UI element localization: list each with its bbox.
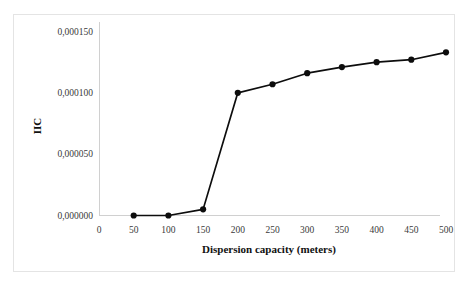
plot-area-background <box>99 22 440 216</box>
data-point <box>304 70 310 76</box>
y-axis-title: IIC <box>31 118 43 135</box>
line-chart: 0,000150 0,000100 0,000050 0,000000 0 50… <box>0 0 469 289</box>
x-axis-tick-labels: 0 50 100 150 200 250 300 350 400 450 500 <box>97 225 454 235</box>
data-point <box>408 57 414 63</box>
data-point <box>443 49 449 55</box>
x-tick-label-3: 150 <box>196 225 211 235</box>
chart-figure: 0,000150 0,000100 0,000050 0,000000 0 50… <box>0 0 469 289</box>
y-tick-label-3: 0,000150 <box>57 27 93 37</box>
data-point <box>339 64 345 70</box>
x-tick-label-8: 400 <box>369 225 384 235</box>
y-tick-label-2: 0,000100 <box>57 88 93 98</box>
y-axis-tick-labels: 0,000150 0,000100 0,000050 0,000000 <box>57 27 93 221</box>
data-point <box>235 90 241 96</box>
x-tick-label-10: 500 <box>439 225 454 235</box>
x-tick-label-2: 100 <box>161 225 176 235</box>
x-axis-title: Dispersion capacity (meters) <box>202 243 336 256</box>
x-tick-label-9: 450 <box>404 225 419 235</box>
x-tick-label-4: 200 <box>231 225 246 235</box>
x-tick-label-0: 0 <box>97 225 102 235</box>
data-point <box>374 59 380 65</box>
x-tick-label-5: 250 <box>265 225 280 235</box>
data-point <box>200 206 206 212</box>
x-tick-label-6: 300 <box>300 225 315 235</box>
x-tick-label-1: 50 <box>129 225 139 235</box>
y-tick-label-1: 0,000050 <box>57 149 93 159</box>
y-tick-label-0: 0,000000 <box>57 211 93 221</box>
data-point <box>131 212 137 218</box>
x-tick-label-7: 350 <box>335 225 350 235</box>
data-point <box>269 81 275 87</box>
data-point <box>165 212 171 218</box>
